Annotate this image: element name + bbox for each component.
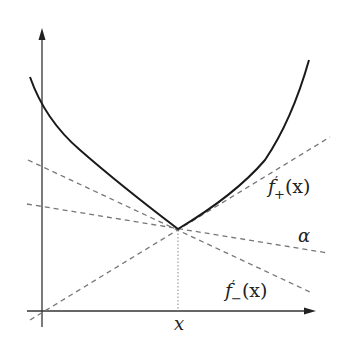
- label-x-tick: x: [174, 313, 184, 334]
- x-axis-arrow-icon: [304, 308, 316, 315]
- convex-kink-diagram: f′+(x) α f′−(x) x: [0, 0, 351, 349]
- label-left-derivative: f′−(x): [223, 278, 267, 306]
- y-axis-arrow-icon: [39, 28, 46, 40]
- label-right-derivative: f′+(x): [266, 174, 310, 202]
- label-alpha: α: [298, 225, 310, 246]
- function-curve: [30, 60, 309, 229]
